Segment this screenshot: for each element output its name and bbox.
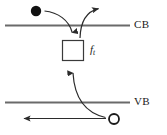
- electron-emission-arrow: [80, 9, 99, 38]
- conduction-band-label: CB: [134, 19, 149, 30]
- trap-level-subscript: t: [93, 48, 95, 57]
- electron-filled-circle: [31, 6, 41, 16]
- valence-band-label: VB: [134, 96, 150, 107]
- band-diagram-figure: CB VB ft: [0, 0, 167, 135]
- trap-level-label: ft: [90, 44, 95, 57]
- hole-open-circle: [109, 114, 119, 124]
- electron-capture-arrow: [45, 11, 73, 33]
- trap-state-box: [63, 41, 84, 61]
- hole-capture-arrow: [73, 73, 106, 118]
